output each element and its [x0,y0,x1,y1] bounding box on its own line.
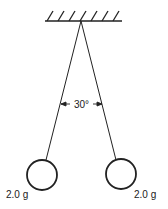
right-mass-label: 2.0 g [134,189,156,200]
angle-label: 30° [74,99,89,110]
pendulum-diagram: 30° 2.0 g 2.0 g [0,0,168,209]
left-string [46,21,81,160]
left-sphere [27,160,57,190]
left-mass-label: 2.0 g [6,189,28,200]
right-sphere [106,159,136,189]
ceiling-support [45,11,122,21]
right-string [81,21,116,160]
